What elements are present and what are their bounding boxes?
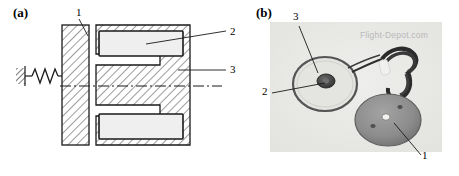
photo-watermark: Flight-Depot.com	[360, 30, 428, 40]
solenoid-coil	[293, 57, 357, 111]
figure-container: (a) 1 2 3	[0, 0, 459, 176]
callout-a-3: 3	[230, 63, 236, 75]
fixed-wall-hatch	[16, 66, 25, 86]
disc-hole-upper	[397, 105, 402, 109]
upper-coil-window	[99, 31, 183, 56]
lower-coil-window	[99, 114, 183, 139]
callout-b-3: 3	[293, 10, 299, 22]
steel-disc-armature	[355, 94, 421, 146]
disc-center-hole	[382, 114, 390, 120]
panel-b-photograph: Flight-Depot.com	[270, 22, 442, 152]
panel-b-label: (b)	[256, 5, 272, 21]
disc-hole-lower	[370, 124, 375, 128]
photo-content	[270, 22, 442, 152]
callout-a-1: 1	[76, 6, 82, 18]
callout-a-2: 2	[230, 25, 236, 37]
callout-b-1: 1	[422, 149, 428, 161]
callout-b-2: 2	[262, 85, 268, 97]
armature-plate	[62, 25, 89, 145]
panel-a-label: (a)	[13, 5, 28, 21]
